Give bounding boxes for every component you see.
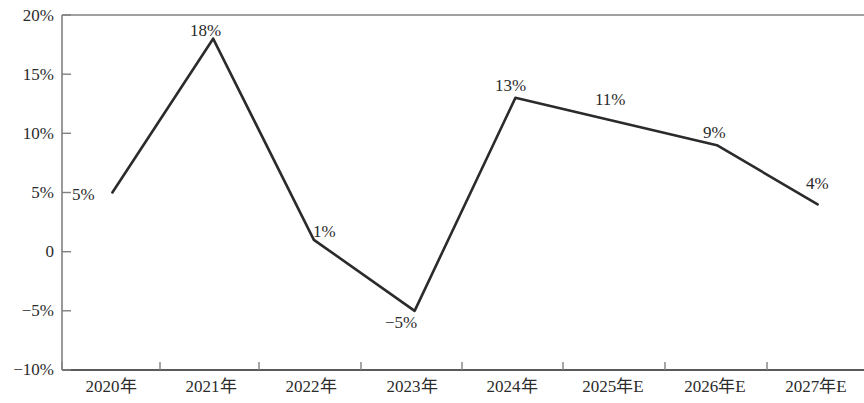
- y-axis-label-15: 15%: [2, 66, 54, 83]
- data-label-2025e: 11%: [595, 91, 626, 108]
- y-axis-label-neg5: −5%: [2, 302, 54, 319]
- x-axis-label-2022: 2022年: [261, 378, 361, 395]
- y-axis-label-neg10: −10%: [2, 361, 54, 378]
- x-axis-label-2020: 2020年: [61, 378, 161, 395]
- data-label-2024: 13%: [495, 77, 526, 94]
- chart-canvas: [0, 0, 864, 403]
- data-label-2021: 18%: [190, 22, 221, 39]
- x-axis-label-2027e: 2027年E: [766, 378, 864, 395]
- x-axis-label-2025e: 2025年E: [563, 378, 663, 395]
- y-axis-label-0: 0: [2, 243, 54, 260]
- line-chart: 20% 15% 10% 5% 0 −5% −10% 2020年 2021年 20…: [0, 0, 864, 403]
- data-label-2022: 1%: [313, 223, 336, 240]
- data-series-line: [112, 39, 817, 311]
- x-axis-label-2023: 2023年: [362, 378, 462, 395]
- y-axis-label-5: 5%: [2, 184, 54, 201]
- data-label-2027e: 4%: [806, 175, 829, 192]
- data-label-2023: −5%: [385, 314, 417, 331]
- x-axis-label-2026e: 2026年E: [665, 378, 765, 395]
- x-axis-label-2021: 2021年: [161, 378, 261, 395]
- x-axis-ticks: [62, 362, 767, 370]
- data-label-2026e: 9%: [703, 124, 726, 141]
- y-axis-ticks: [62, 15, 71, 370]
- data-label-2020: 5%: [72, 186, 95, 203]
- y-axis-label-10: 10%: [2, 125, 54, 142]
- x-axis-label-2024: 2024年: [462, 378, 562, 395]
- y-axis-label-20: 20%: [2, 7, 54, 24]
